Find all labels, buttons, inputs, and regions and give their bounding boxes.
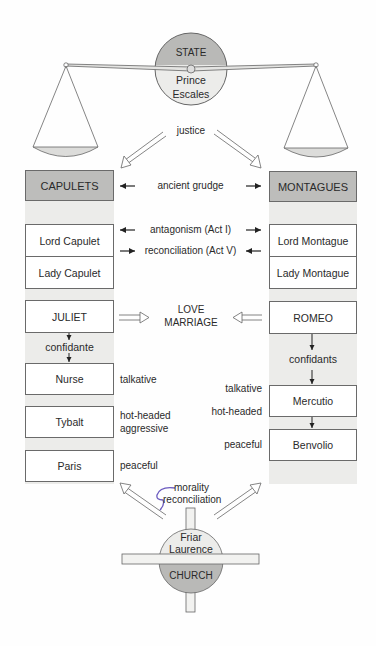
mercutio-trait-2: hot-headed <box>211 405 262 418</box>
state-title: STATE <box>171 46 211 59</box>
lord-montague-box: Lord Montague <box>269 224 357 257</box>
tybalt-box: Tybalt <box>25 406 114 438</box>
romeo-label: ROMEO <box>293 312 333 324</box>
justice-arrow-left-icon <box>121 132 166 168</box>
paris-trait: peaceful <box>120 459 158 472</box>
capulets-header: CAPULETS <box>25 170 114 201</box>
lady-capulet-box: Lady Capulet <box>25 256 114 289</box>
marriage-label: MARRIAGE <box>160 316 222 329</box>
love-arrow-right-icon <box>119 312 149 323</box>
benvolio-label: Benvolio <box>293 439 333 451</box>
ancient-grudge-label: ancient grudge <box>140 179 241 192</box>
laurence-label: Laurence <box>161 543 221 556</box>
tybalt-trait-1: hot-headed <box>120 409 171 422</box>
mercutio-trait-1: talkative <box>225 382 262 395</box>
church-title: CHURCH <box>161 569 221 582</box>
tybalt-trait-2: aggressive <box>120 422 168 435</box>
mercutio-box: Mercutio <box>269 385 357 417</box>
church-arrow-left-icon <box>120 483 166 519</box>
antagonism-label: antagonism (Act I) <box>138 223 243 236</box>
confidante-label: confidante <box>25 341 114 354</box>
benvolio-box: Benvolio <box>269 429 357 461</box>
juliet-label: JULIET <box>52 311 87 323</box>
love-arrow-left-icon <box>233 312 262 323</box>
lady-capulet-label: Lady Capulet <box>39 267 101 279</box>
state-ruler-line2: Escales <box>166 88 216 101</box>
paris-label: Paris <box>58 460 82 472</box>
nurse-trait: talkative <box>120 373 157 386</box>
tybalt-label: Tybalt <box>55 416 83 428</box>
juliet-box: JULIET <box>25 300 114 333</box>
church-reconciliation-label: reconciliation <box>163 493 221 506</box>
justice-arrow-right-icon <box>214 130 261 168</box>
montagues-header: MONTAGUES <box>269 171 357 202</box>
montagues-label: MONTAGUES <box>278 181 348 193</box>
nurse-box: Nurse <box>25 363 114 395</box>
left-scale-pan-icon <box>33 66 98 157</box>
reconciliation-label: reconciliation (Act V) <box>138 244 243 257</box>
lord-capulet-label: Lord Capulet <box>39 235 99 247</box>
right-scale-pan-icon <box>284 66 348 157</box>
church-cross-icon <box>122 508 259 612</box>
nurse-label: Nurse <box>55 373 83 385</box>
benvolio-trait: peaceful <box>224 438 262 451</box>
state-ruler-line1: Prince <box>166 74 216 87</box>
lord-montague-label: Lord Montague <box>278 235 349 247</box>
justice-label: justice <box>170 124 212 137</box>
paris-box: Paris <box>25 450 114 482</box>
lord-capulet-box: Lord Capulet <box>25 224 114 257</box>
capulets-label: CAPULETS <box>40 180 98 192</box>
confidants-label: confidants <box>269 353 357 366</box>
lady-montague-box: Lady Montague <box>269 256 357 289</box>
lady-montague-label: Lady Montague <box>277 267 349 279</box>
love-label: LOVE <box>160 303 222 316</box>
romeo-box: ROMEO <box>269 301 357 334</box>
mercutio-label: Mercutio <box>293 395 333 407</box>
